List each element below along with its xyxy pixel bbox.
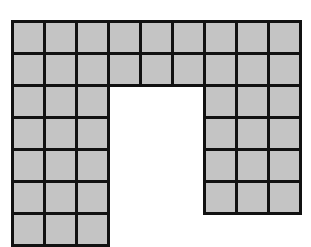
grid-tile xyxy=(75,84,110,119)
grid-tile xyxy=(43,20,78,55)
grid-tile xyxy=(43,116,78,151)
grid-tile xyxy=(43,148,78,183)
grid-tile xyxy=(235,20,270,55)
grid-tile xyxy=(203,20,238,55)
grid-tile xyxy=(203,180,238,215)
grid-tile xyxy=(11,20,46,55)
grid-tile xyxy=(267,52,302,87)
grid-tile xyxy=(11,180,46,215)
grid-tile xyxy=(203,84,238,119)
grid-tile xyxy=(107,20,142,55)
grid-tile xyxy=(11,84,46,119)
grid-tile xyxy=(75,20,110,55)
grid-tile xyxy=(171,20,206,55)
grid-tile xyxy=(75,116,110,151)
grid-tile xyxy=(203,52,238,87)
grid-tile xyxy=(235,84,270,119)
grid-tile xyxy=(267,84,302,119)
grid-tile xyxy=(235,116,270,151)
grid-tile xyxy=(75,52,110,87)
grid-tile xyxy=(235,180,270,215)
grid-tile xyxy=(235,52,270,87)
grid-tile xyxy=(107,52,142,87)
grid-tile xyxy=(267,180,302,215)
grid-tile xyxy=(139,52,174,87)
grid-tile xyxy=(75,212,110,247)
grid-tile xyxy=(203,148,238,183)
grid-tile xyxy=(43,212,78,247)
grid-tile xyxy=(75,180,110,215)
grid-tile xyxy=(11,52,46,87)
grid-tile xyxy=(267,116,302,151)
grid-tile xyxy=(267,148,302,183)
grid-tile xyxy=(11,116,46,151)
grid-tile xyxy=(43,84,78,119)
grid-tile xyxy=(43,180,78,215)
grid-tile xyxy=(171,52,206,87)
grid-tile xyxy=(43,52,78,87)
grid-tile xyxy=(235,148,270,183)
grid-tile xyxy=(11,148,46,183)
grid-tile xyxy=(75,148,110,183)
grid-tile xyxy=(11,212,46,247)
grid-tile xyxy=(203,116,238,151)
grid-tile xyxy=(139,20,174,55)
grid-tile xyxy=(267,20,302,55)
